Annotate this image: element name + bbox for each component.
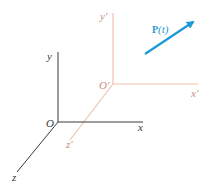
- local-x-label: x′: [190, 87, 199, 99]
- world-z-axis: [17, 122, 58, 172]
- world-origin-label: O: [46, 117, 54, 129]
- world-z-label: z: [11, 171, 17, 183]
- vector-label-arg: (t): [158, 23, 169, 36]
- vector-p: P(t): [145, 22, 193, 54]
- coordinate-frames-diagram: y′ O′ x′ z′ y O x z P(t): [0, 0, 209, 191]
- world-y-label: y: [46, 50, 52, 62]
- world-x-label: x: [137, 121, 143, 133]
- world-frame: y O x z: [11, 50, 143, 183]
- local-z-label: z′: [65, 138, 73, 150]
- local-z-axis: [70, 84, 113, 140]
- local-y-label: y′: [99, 10, 108, 22]
- vector-label: P(t): [152, 23, 169, 36]
- local-origin-label: O′: [99, 79, 110, 91]
